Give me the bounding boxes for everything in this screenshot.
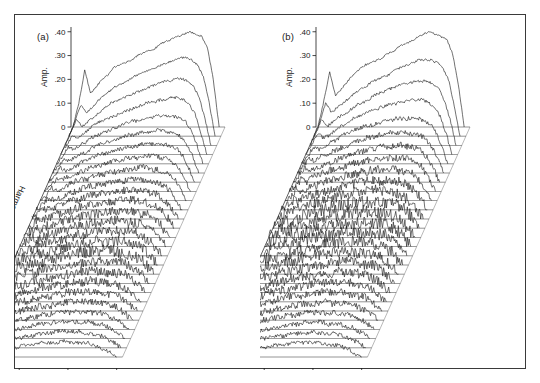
y-tick-label: 0 <box>306 123 311 132</box>
y-tick-label: .20 <box>299 75 311 84</box>
panel-a-plot: .40.30.20.100Amp.0.25.50.75TimeHarmonics <box>15 15 271 370</box>
panel-b: (b) .40.30.20.100Amp.0.25.50.75Time <box>260 15 522 370</box>
panel-b-plot: .40.30.20.100Amp.0.25.50.75Time <box>260 15 522 370</box>
panel-a: (a) .40.30.20.100Amp.0.25.50.75TimeHarmo… <box>15 15 271 370</box>
figure-root: (a) .40.30.20.100Amp.0.25.50.75TimeHarmo… <box>0 0 540 383</box>
y-tick-label: .40 <box>54 28 66 37</box>
y-tick-label: .20 <box>54 75 66 84</box>
y-axis-title: Amp. <box>284 67 294 87</box>
depth-axis-title: Harmonics <box>15 184 28 225</box>
y-tick-label: .30 <box>54 51 66 60</box>
y-tick-label: 0 <box>61 123 66 132</box>
figure-frame: (a) .40.30.20.100Amp.0.25.50.75TimeHarmo… <box>14 14 526 369</box>
y-tick-label: .30 <box>299 51 311 60</box>
y-tick-label: .10 <box>54 99 66 108</box>
y-tick-label: .10 <box>299 99 311 108</box>
y-tick-label: .40 <box>299 28 311 37</box>
y-axis-title: Amp. <box>39 67 49 87</box>
